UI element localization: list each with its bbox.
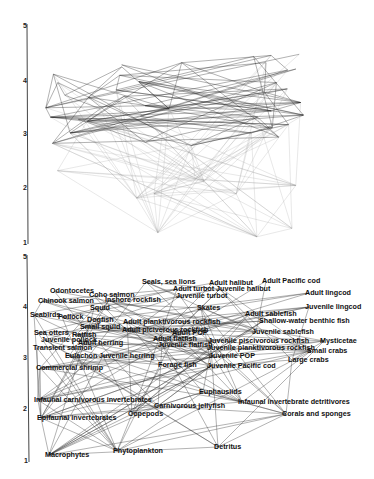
food-web-edge: [137, 185, 296, 198]
bottom-tick-2: 2: [23, 405, 27, 412]
food-web-edge: [154, 194, 257, 237]
food-web-edge: [264, 92, 288, 125]
food-web-edge: [163, 133, 293, 228]
node-label: Juvenile flatfish: [158, 340, 212, 349]
food-web-edge: [251, 133, 257, 237]
food-web-figure: 5 4 3 2 1 5 4 3 2 1 Seals, sea lionsAdul…: [0, 0, 374, 479]
food-web-edge: [100, 96, 124, 109]
node-label: Pollock: [58, 312, 84, 321]
node-label: Juvenile Pacific cod: [207, 361, 276, 370]
food-web-edge: [115, 125, 195, 180]
node-label: Seabirds: [30, 310, 60, 319]
node-label: Phytoplankton: [113, 446, 163, 455]
top-y-axis: [27, 24, 28, 244]
food-web-edge: [87, 63, 182, 122]
food-web-edge: [120, 75, 277, 82]
food-web-edge: [182, 63, 265, 92]
food-web-edge: [236, 133, 251, 194]
node-label: Adult lingcod: [305, 288, 351, 297]
food-web-edge: [289, 125, 292, 229]
top-tick-2: 2: [23, 184, 27, 191]
top-tick-1: 1: [23, 239, 27, 246]
food-web-edge: [124, 96, 145, 105]
food-web-edge: [154, 137, 279, 194]
food-web-edge: [53, 97, 89, 143]
node-label: Squid: [90, 303, 110, 312]
node-label: Copepods: [128, 409, 163, 418]
food-web-edge: [103, 356, 132, 414]
top-edges: [46, 54, 304, 237]
bottom-node-labels: Seals, sea lionsAdult halibutAdult Pacif…: [30, 276, 361, 459]
node-label: Carnivorous jellyfish: [154, 401, 225, 410]
food-web-edge: [158, 194, 236, 233]
food-web-edge: [53, 109, 101, 144]
node-label: Infaunal carnivorous invertebrates: [34, 395, 152, 404]
node-label: Infaunal invertebrate detritivores: [238, 397, 350, 406]
node-label: Juvenile herring: [99, 351, 155, 360]
top-tick-3: 3: [23, 130, 27, 137]
node-label: Eulachon: [65, 351, 97, 360]
node-label: Juvenile lingcod: [305, 302, 361, 311]
food-web-edge: [46, 83, 58, 108]
node-label: Mysticetae: [320, 336, 357, 345]
node-label: Adult Pacific cod: [262, 276, 320, 285]
food-web-edge: [38, 400, 117, 451]
bottom-panel: 5 4 3 2 1 Seals, sea lionsAdult halibutA…: [23, 253, 361, 464]
food-web-edge: [116, 56, 254, 90]
node-label: Small crabs: [307, 346, 347, 355]
node-label: Skates: [197, 303, 220, 312]
food-web-edge: [65, 95, 257, 237]
bottom-tick-5: 5: [23, 253, 27, 260]
node-label: Epifaunal invertebrates: [37, 413, 117, 422]
node-label: Detritus: [214, 442, 241, 451]
node-label: Commercial shrimp: [36, 363, 104, 372]
food-web-edge: [154, 194, 292, 229]
food-web-edge: [154, 125, 289, 194]
food-web-edge: [51, 111, 272, 117]
food-web-edge: [58, 171, 158, 233]
food-web-edge: [191, 117, 257, 145]
food-web-edge: [70, 133, 204, 181]
food-web-edge: [46, 54, 299, 108]
bottom-y-axis: [27, 255, 29, 462]
node-label: Corals and sponges: [282, 409, 351, 418]
food-web-edge: [296, 103, 301, 186]
node-label: Large crabs: [288, 355, 329, 364]
node-label: Euphausiids: [199, 387, 242, 396]
node-label: Juvenile turbot: [176, 291, 228, 300]
bottom-tick-3: 3: [23, 354, 27, 361]
bottom-tick-4: 4: [23, 303, 27, 310]
node-label: Forage fish: [158, 360, 197, 369]
food-web-edge: [137, 198, 158, 233]
top-tick-5: 5: [23, 22, 27, 29]
node-label: Chinook salmon: [38, 296, 94, 305]
top-panel: 5 4 3 2 1: [23, 22, 303, 246]
top-tick-4: 4: [23, 77, 27, 84]
node-label: Juvenile sablefish: [252, 327, 314, 336]
node-label: Inshore rockfish: [105, 295, 161, 304]
food-web-edge: [88, 97, 236, 194]
food-web-edge: [271, 55, 288, 70]
food-web-edge: [191, 128, 272, 146]
node-label: Juvenile POP: [209, 351, 255, 360]
food-web-edge: [158, 366, 211, 406]
node-label: Shallow-water benthic fish: [259, 316, 350, 325]
bottom-tick-1: 1: [24, 457, 28, 464]
node-label: Odontocetes: [50, 286, 94, 295]
node-label: Macrophytes: [45, 450, 89, 459]
food-web-edge: [65, 67, 122, 95]
food-web-edge: [46, 74, 54, 108]
